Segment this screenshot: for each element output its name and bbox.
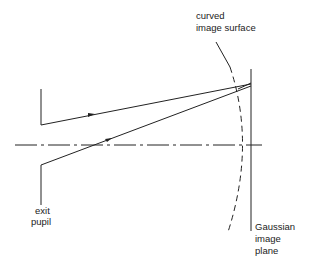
curved-surface-label-line1: curved (196, 11, 225, 22)
gaussian-plane-label-line3: plane (255, 246, 278, 257)
exit-pupil-label-line2: pupil (31, 217, 51, 228)
exit-pupil-label-line1: exit (35, 206, 50, 217)
curved-surface-label-line2: image surface (196, 23, 256, 34)
upper-ray (41, 84, 251, 125)
gaussian-plane-label-line1: Gaussian (255, 222, 295, 233)
lower-ray-arrow-icon (105, 138, 112, 142)
lower-ray (41, 86, 251, 165)
curved-surface-leader (216, 42, 230, 67)
gaussian-plane-label-line2: image (255, 234, 281, 245)
